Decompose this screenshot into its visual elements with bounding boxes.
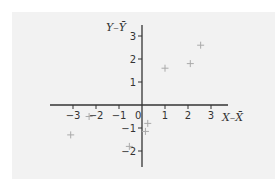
data-point-marker <box>162 65 169 72</box>
data-point-marker <box>144 120 151 127</box>
y-tick-label: 3 <box>130 31 136 42</box>
y-tick-label: −1 <box>121 123 136 134</box>
y-tick-label: 1 <box>130 77 136 88</box>
x-axis-title: X–X̄ <box>221 111 244 124</box>
data-point-marker <box>142 128 149 135</box>
y-axis-title: Y–Ȳ <box>106 21 128 34</box>
x-tick-label: −3 <box>66 110 81 121</box>
x-tick-label: 2 <box>185 110 191 121</box>
data-point-marker <box>187 60 194 67</box>
x-tick-label: 0 <box>135 110 141 121</box>
scatter-plot: −3−2−10123−2−1123Y–ȲX–X̄ <box>0 0 275 184</box>
data-point-marker <box>67 131 74 138</box>
y-tick-label: −2 <box>121 146 136 157</box>
data-point-marker <box>197 42 204 49</box>
x-tick-label: 1 <box>162 110 168 121</box>
y-tick-label: 2 <box>130 54 136 65</box>
x-tick-label: −2 <box>89 110 104 121</box>
x-tick-label: 3 <box>208 110 214 121</box>
x-tick-label: −1 <box>112 110 127 121</box>
